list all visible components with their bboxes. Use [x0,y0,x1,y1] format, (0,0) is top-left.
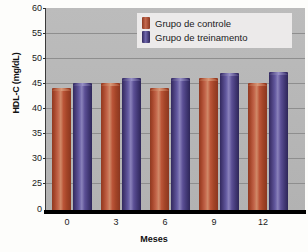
bar-cap [171,78,190,81]
bar-cap [150,88,169,91]
y-tick-label-40: 40 [20,104,42,113]
bar-cap [248,83,267,86]
bar-control-month-3 [101,83,120,212]
x-axis-title: Meses [0,234,308,244]
bar-cap [122,78,141,81]
bar-control-month-6 [150,88,169,212]
x-tick-label-0: 0 [52,217,82,227]
bar-cap [52,88,71,91]
bar-training-month-9 [220,73,239,212]
x-tick-label-12: 12 [248,217,278,227]
gridline-50 [46,58,305,59]
y-tick-label-45: 45 [20,79,42,88]
y-tick-label-0: 0 [20,205,42,214]
legend-item-training: Grupo de treinamento [142,30,288,44]
control-color-swatch [142,17,150,29]
y-tick-label-50: 50 [20,54,42,63]
bar-control-month-12 [248,83,267,212]
training-color-swatch [142,31,150,43]
chart-legend: Grupo de controle Grupo de treinamento [137,13,292,48]
bar-training-month-0 [73,83,92,212]
bar-training-month-12 [269,72,288,212]
y-tick-label-30: 30 [20,154,42,163]
bar-training-month-6 [171,78,190,212]
legend-label-training: Grupo de treinamento [155,32,247,43]
hdl-c-bar-chart: HDL-C (mg/dL) 60 55 50 45 40 35 30 25 0 … [0,0,308,252]
y-axis-tick-group: 60 55 50 45 40 35 30 25 0 [18,0,42,252]
y-tick-label-55: 55 [20,29,42,38]
bar-cap [220,73,239,76]
bar-training-month-3 [122,78,141,212]
bar-cap [73,83,92,86]
x-tick-label-3: 3 [101,217,131,227]
legend-label-control: Grupo de controle [155,18,231,29]
x-tick-label-9: 9 [199,217,229,227]
y-tick-label-35: 35 [20,129,42,138]
y-axis-line [45,8,46,212]
legend-item-control: Grupo de controle [142,16,288,30]
bar-control-month-9 [199,78,218,212]
y-tick-label-25: 25 [20,179,42,188]
x-tick-label-6: 6 [150,217,180,227]
bar-cap [269,72,288,75]
bar-cap [101,83,120,86]
x-axis-line [44,210,306,214]
y-tick-label-60: 60 [20,4,42,13]
bar-cap [199,78,218,81]
bar-control-month-0 [52,88,71,212]
